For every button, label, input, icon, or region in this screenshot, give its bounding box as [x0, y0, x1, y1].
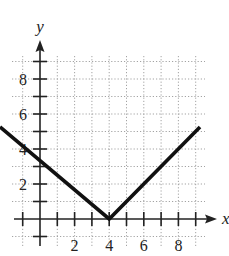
- y-axis-label: y: [34, 17, 44, 36]
- function-curve: [0, 127, 200, 219]
- graph-canvas: 2 4 6 8 2 4 6 8 y x: [0, 0, 229, 256]
- y-tick-label: 2: [19, 176, 27, 193]
- y-tick-label: 8: [19, 71, 27, 88]
- x-tick-label: 8: [174, 237, 182, 254]
- x-axis-label: x: [221, 209, 229, 228]
- x-tick-label: 4: [105, 237, 113, 254]
- y-tick-label: 6: [19, 106, 27, 123]
- x-tick-label: 2: [71, 237, 79, 254]
- x-tick-label: 6: [140, 237, 148, 254]
